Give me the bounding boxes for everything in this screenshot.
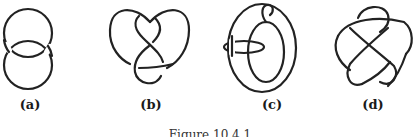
panel-a-label: (a) (10, 97, 50, 112)
panel-b-knot (105, 0, 195, 95)
panel-b-label: (b) (131, 97, 171, 112)
panel-a-hopf-link (0, 0, 60, 95)
heart-knot-icon (105, 0, 195, 95)
panel-c-label: (c) (252, 97, 292, 112)
hopf-link-icon (0, 0, 60, 95)
star-knot-icon (328, 0, 418, 95)
panel-d-star-knot (328, 0, 418, 95)
panel-c-torus-link (220, 0, 305, 95)
panel-d-label: (d) (353, 97, 393, 112)
figure-caption: Figure 10.4.1 (0, 128, 420, 137)
torus-loop-icon (220, 0, 305, 95)
